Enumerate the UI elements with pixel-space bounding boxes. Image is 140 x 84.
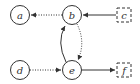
node-a: a — [11, 6, 30, 25]
node-f: f — [117, 63, 131, 77]
node-e: e — [63, 61, 82, 80]
node-b: b — [63, 6, 82, 25]
edge-b-to-e — [77, 24, 82, 60]
node-c-label: c — [121, 10, 127, 21]
node-a-label: a — [17, 10, 23, 21]
node-d: d — [11, 61, 30, 80]
graph-diagram: a b c d e f — [0, 0, 140, 84]
node-c: c — [117, 8, 131, 22]
node-b-label: b — [69, 10, 75, 21]
node-d-label: d — [17, 65, 23, 76]
node-e-label: e — [69, 65, 75, 76]
edge-e-to-b — [61, 26, 66, 62]
